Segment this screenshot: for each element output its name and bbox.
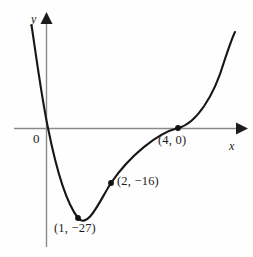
cubic-curve bbox=[32, 25, 236, 221]
point-marker-x-intercept bbox=[175, 125, 181, 131]
origin-label: 0 bbox=[33, 131, 40, 147]
graph-figure: y x 0 (4, 0) (2, −16) (1, −27) bbox=[0, 0, 253, 257]
x-axis-label: x bbox=[229, 139, 234, 154]
point-label-x-intercept: (4, 0) bbox=[158, 133, 186, 148]
y-axis-label: y bbox=[31, 12, 36, 27]
x-axis-arrowhead bbox=[236, 123, 248, 135]
point-label-minimum: (1, −27) bbox=[54, 221, 96, 236]
y-axis-arrowhead bbox=[41, 12, 53, 24]
point-label-inflection: (2, −16) bbox=[117, 174, 159, 189]
point-marker-inflection bbox=[108, 180, 114, 186]
plot-canvas bbox=[0, 0, 253, 257]
